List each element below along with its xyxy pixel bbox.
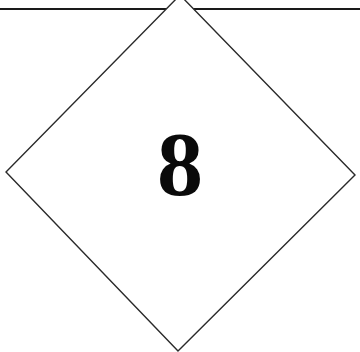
diamond-number: 8 bbox=[0, 118, 360, 210]
